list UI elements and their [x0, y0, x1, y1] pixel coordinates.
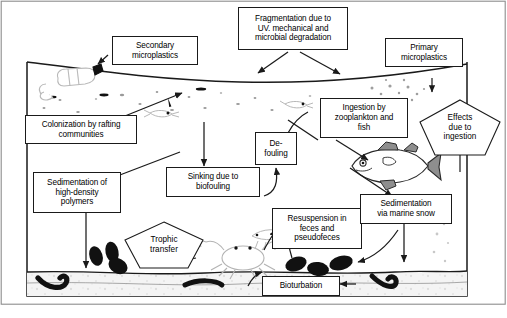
node-primary-microplastics-label: Primarymicroplastics [388, 43, 460, 62]
arrow-fragmentation-right [300, 52, 340, 74]
arrow-fragmentation-left [258, 52, 288, 73]
arrow-sinking-to-defouling [264, 168, 277, 196]
node-effects-ingestion-label: Effectsdue toingestion [428, 113, 492, 142]
node-secondary-microplastics-label: Secondarymicroplastics [115, 41, 195, 60]
node-effects-ingestion[interactable]: Effectsdue toingestion [419, 99, 501, 156]
figure-microplastics-pathways: Secondarymicroplastics Fragmentation due… [0, 0, 507, 318]
node-bioturbation[interactable]: Bioturbation [262, 276, 340, 296]
node-ingestion[interactable]: Ingestion byzooplankton andfish [320, 98, 408, 138]
node-resuspension[interactable]: Resuspension infeces andpseudofeces [272, 208, 362, 249]
node-colonization-label: Colonization by raftingcommunities [28, 120, 134, 139]
node-fragmentation-label: Fragmentation due toUV. mechanical andmi… [241, 14, 345, 43]
node-primary-microplastics[interactable]: Primarymicroplastics [385, 38, 463, 67]
node-secondary-microplastics[interactable]: Secondarymicroplastics [112, 36, 198, 65]
zooplankton-icon-2 [280, 101, 313, 108]
zooplankton-icon [144, 110, 179, 117]
arrow-secondary-to-bottle [98, 55, 108, 64]
node-sedimentation-high-density-label: Sedimentation ofhigh-densitypolymers [36, 178, 118, 207]
arrow-ingestion-to-fish [336, 140, 368, 160]
node-bioturbation-label: Bioturbation [265, 281, 337, 291]
node-sedimentation-high-density[interactable]: Sedimentation ofhigh-densitypolymers [33, 172, 121, 213]
figure-caption [4, 308, 334, 318]
node-trophic-transfer-label: Trophictransfer [133, 235, 195, 254]
node-colonization[interactable]: Colonization by raftingcommunities [25, 115, 137, 144]
node-defouling-label: De-fouling [258, 139, 294, 158]
node-trophic-transfer[interactable]: Trophictransfer [124, 221, 204, 269]
plastic-bottle-icon [39, 64, 103, 100]
sediment-bed [27, 271, 467, 296]
node-sedimentation-marine-snow[interactable]: Sedimentationvia marine snow [360, 194, 452, 224]
node-resuspension-label: Resuspension infeces andpseudofeces [275, 214, 359, 243]
node-fragmentation[interactable]: Fragmentation due toUV. mechanical andmi… [238, 7, 348, 50]
arrow-snow-to-pellets [358, 230, 398, 262]
node-ingestion-label: Ingestion byzooplankton andfish [323, 103, 405, 132]
node-defouling[interactable]: De-fouling [255, 132, 297, 165]
node-sinking-biofouling-label: Sinking due tobiofouling [169, 172, 257, 191]
node-sedimentation-marine-snow-label: Sedimentationvia marine snow [363, 199, 449, 218]
node-sinking-biofouling[interactable]: Sinking due tobiofouling [166, 167, 260, 197]
